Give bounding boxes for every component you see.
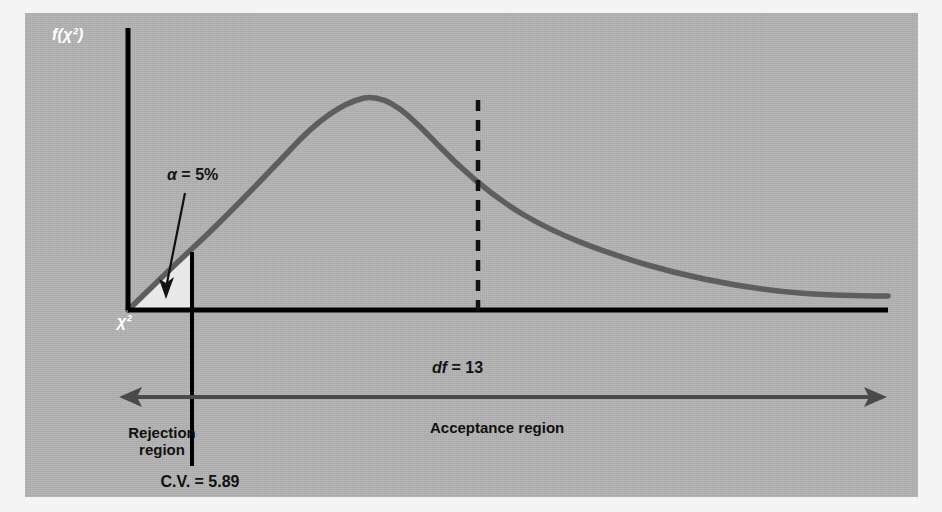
x-axis-label: χ²	[117, 313, 132, 331]
region-span-arrow	[119, 387, 887, 407]
alpha-symbol: α	[167, 166, 177, 183]
critical-value-label: C.V. = 5.89	[112, 473, 288, 491]
rejection-region-label: Rejection region	[110, 425, 214, 459]
df-symbol: df	[432, 359, 447, 376]
chi-square-distribution-figure: f(χ²) χ² α = 5% df = 13 Rejection region…	[0, 0, 942, 512]
y-axis-label: f(χ²)	[52, 26, 84, 44]
alpha-value: = 5%	[177, 166, 218, 183]
rejection-region-label-line1: Rejection	[110, 425, 214, 442]
alpha-annotation-label: α = 5%	[167, 166, 218, 184]
chi-square-curve	[128, 98, 888, 310]
df-annotation-label: df = 13	[432, 359, 483, 377]
df-value: = 13	[447, 359, 483, 376]
acceptance-region-label: Acceptance region	[430, 420, 564, 437]
rejection-region-label-line2: region	[110, 442, 214, 459]
